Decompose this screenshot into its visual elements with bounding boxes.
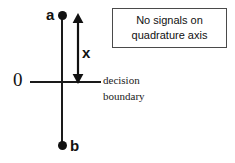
decision-boundary-caption-line1: decision <box>103 73 145 89</box>
decision-boundary-caption: decision boundary <box>103 73 145 105</box>
diagram-canvas: 0 a b x decision boundary No signals on … <box>0 0 235 163</box>
signal-point-a <box>58 11 67 20</box>
decision-boundary-line <box>30 81 101 83</box>
annotation-callout-box: No signals on quadrature axis <box>112 8 227 48</box>
origin-label: 0 <box>13 70 23 89</box>
decision-boundary-caption-line2: boundary <box>103 89 145 105</box>
distance-label: x <box>82 45 90 60</box>
signal-point-a-label: a <box>46 7 54 22</box>
annotation-callout-line2: quadrature axis <box>132 28 208 43</box>
signal-point-b-label: b <box>70 138 79 153</box>
signal-point-b <box>58 141 67 150</box>
annotation-callout-line1: No signals on <box>136 13 203 28</box>
